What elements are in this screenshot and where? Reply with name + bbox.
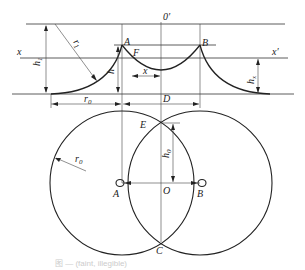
- label-e: E: [139, 119, 146, 130]
- label-c: C: [156, 245, 163, 256]
- label-x-right: x′: [271, 46, 279, 57]
- svg-text:hx: hx: [245, 75, 258, 84]
- label-a-bottom: A: [112, 188, 120, 199]
- label-d: D: [162, 93, 171, 104]
- label-f: F: [132, 47, 140, 58]
- label-b-top: B: [202, 37, 208, 48]
- label-o-prime: 0′: [163, 11, 171, 22]
- right-profile-curve: [200, 45, 270, 94]
- svg-text:h1: h1: [31, 58, 44, 67]
- figure-caption: 图 — (faint, illegible): [55, 259, 127, 268]
- svg-text:r1: r1: [70, 37, 85, 51]
- construction-diagram: 0′ A B F x x′ x h1 r1 h hx r0 D E h0 r0 …: [0, 0, 305, 270]
- label-a-top: A: [123, 36, 131, 47]
- label-r0-circle: r0: [75, 153, 83, 166]
- label-h: h: [105, 69, 116, 74]
- svg-text:h0: h0: [160, 149, 173, 158]
- label-o: O: [163, 185, 170, 196]
- label-x-left: x: [16, 46, 22, 57]
- label-b-bottom: B: [197, 188, 203, 199]
- label-x-dim: x: [142, 65, 148, 76]
- r1-leader: [55, 24, 96, 80]
